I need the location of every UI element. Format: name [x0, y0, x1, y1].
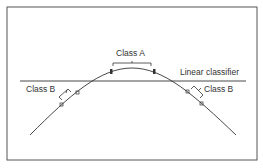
class-a-bracket	[113, 61, 151, 66]
class-a-marker-left	[110, 69, 113, 74]
linear-classifier-label: Linear classifier	[180, 67, 239, 77]
class-b-right-label: Class B	[204, 84, 234, 94]
data-curve	[30, 68, 236, 135]
diagram-canvas: Class A Class B Class B Linear classifie…	[0, 0, 263, 168]
class-a-marker-right	[153, 69, 156, 74]
class-b-left-label: Class B	[26, 84, 56, 94]
class-a-label: Class A	[116, 48, 145, 58]
